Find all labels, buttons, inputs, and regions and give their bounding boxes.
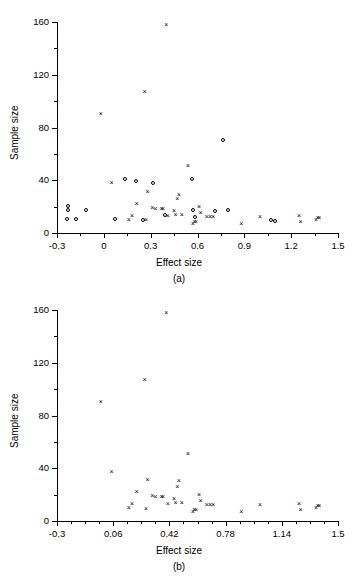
x-minor-tick-b [254,521,255,524]
x-tick-b-0 [57,521,58,526]
x-minor-tick-b [99,521,100,524]
data-point-cross: × [298,219,304,225]
data-point-cross: × [316,215,322,221]
data-point-cross: × [316,503,322,509]
data-point-cross: × [176,192,182,198]
x-tick-label-b-1: 0.06 [93,529,133,539]
y-tick-label-b-0: 0 [15,516,49,526]
data-point-cross: × [141,377,147,383]
data-point-cross: × [179,212,185,218]
x-minor-tick-b [155,521,156,524]
data-point-cross: × [145,189,151,195]
data-point-cross: × [98,399,104,405]
x-tick-a-3 [198,233,199,238]
y-minor-tick-b [54,336,57,337]
x-tick-b-5 [338,521,339,526]
x-tick-label-a-5: 1.2 [271,241,311,251]
panel-caption-b: (b) [0,561,358,572]
data-point-cross: × [185,163,191,169]
x-tick-label-b-5: 1.5 [318,529,358,539]
panel-caption-a: (a) [0,273,358,284]
data-point-cross: × [163,310,169,316]
data-point-cross: × [198,210,204,216]
data-point-cross: × [129,501,135,507]
data-point-cross: × [198,498,204,504]
x-minor-tick-a [315,233,316,236]
data-point-cross: × [257,502,263,508]
x-tick-a-1 [104,233,105,238]
x-tick-label-a-4: 0.9 [224,241,264,251]
y-minor-tick-b [54,442,57,443]
y-tick-label-a-0: 0 [15,228,49,238]
y-tick-label-b-4: 160 [15,305,49,315]
panel-a: ××××××××××××××××××××××××××××××××××× Samp… [0,0,358,288]
x-minor-tick-b [268,521,269,524]
data-point-cross: × [129,213,135,219]
x-tick-label-a-0: -0.3 [37,241,77,251]
x-tick-label-b-3: 0.78 [206,529,246,539]
x-minor-tick-a [221,233,222,236]
y-axis-line-b [57,310,58,521]
data-point-cross: × [185,451,191,457]
y-tick-a-2 [52,128,57,129]
figure-scatter-panels: ××××××××××××××××××××××××××××××××××× Samp… [0,0,358,576]
x-tick-b-2 [169,521,170,526]
data-point-cross: × [298,507,304,513]
data-point-cross: × [210,502,216,508]
y-tick-label-a-4: 160 [15,17,49,27]
x-tick-label-a-2: 0.3 [131,241,171,251]
data-point-circle [123,177,127,181]
x-tick-a-5 [291,233,292,238]
y-tick-a-1 [52,180,57,181]
y-tick-b-0 [52,521,57,522]
data-point-cross: × [193,219,199,225]
y-minor-tick-a [54,154,57,155]
x-tick-label-a-3: 0.6 [178,241,218,251]
data-point-cross: × [165,501,171,507]
x-minor-tick-b [310,521,311,524]
x-tick-label-b-2: 0.42 [149,529,189,539]
x-minor-tick-b [324,521,325,524]
x-minor-tick-b [127,521,128,524]
data-point-cross: × [141,89,147,95]
y-tick-b-2 [52,416,57,417]
data-point-cross: × [176,478,182,484]
x-tick-a-6 [338,233,339,238]
data-point-circle [273,219,277,223]
data-point-cross: × [173,212,179,218]
data-point-circle [66,208,70,212]
y-tick-label-a-2: 80 [15,123,49,133]
data-point-circle [221,138,225,142]
x-axis-title-a: Effect size [0,257,358,268]
x-tick-label-a-1: 0 [84,241,124,251]
data-point-cross: × [152,494,158,500]
y-tick-b-1 [52,468,57,469]
y-tick-a-3 [52,75,57,76]
x-minor-tick-b [85,521,86,524]
y-tick-label-b-2: 80 [15,411,49,421]
data-point-cross: × [143,506,149,512]
data-point-circle [134,179,138,183]
x-axis-title-b: Effect size [0,545,358,556]
x-minor-tick-a [80,233,81,236]
x-minor-tick-b [183,521,184,524]
y-tick-a-4 [52,22,57,23]
data-point-circle [191,208,195,212]
y-minor-tick-a [54,101,57,102]
y-minor-tick-b [54,495,57,496]
y-tick-b-3 [52,363,57,364]
x-minor-tick-b [198,521,199,524]
x-tick-a-2 [151,233,152,238]
x-tick-b-4 [282,521,283,526]
data-point-cross: × [109,469,115,475]
panel-b: ××××××××××××××××××××××××××××××××××× Samp… [0,288,358,576]
data-point-circle [151,181,155,185]
data-point-cross: × [163,22,169,28]
data-point-cross: × [238,221,244,227]
x-minor-tick-b [212,521,213,524]
data-point-cross: × [174,484,180,490]
x-tick-b-1 [113,521,114,526]
y-minor-tick-b [54,389,57,390]
x-tick-label-a-6: 1.5 [318,241,358,251]
data-point-circle [65,217,69,221]
